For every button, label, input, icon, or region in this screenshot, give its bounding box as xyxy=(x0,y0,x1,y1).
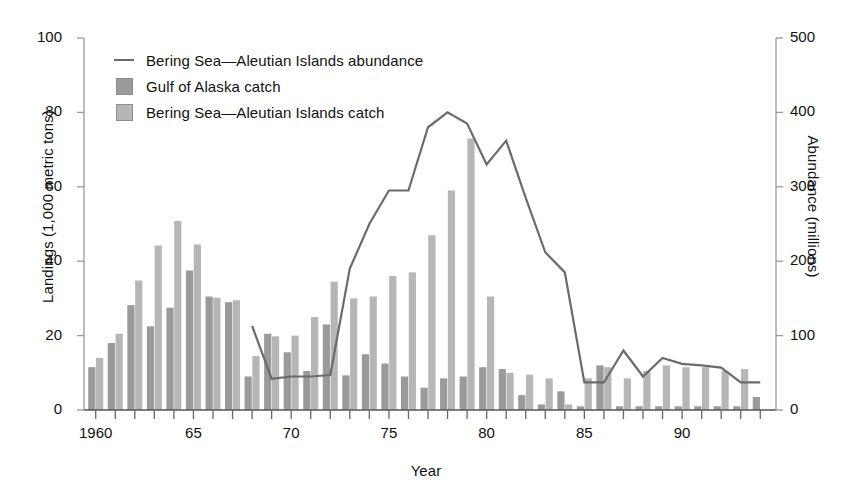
legend-color-swatch-icon xyxy=(116,104,133,121)
chart-figure: 020406080100 0100200300400500 1960657075… xyxy=(0,0,852,499)
chart-legend: Bering Sea—Aleutian Islands abundanceGul… xyxy=(113,47,423,125)
x-tick-label-80: 80 xyxy=(457,424,517,441)
x-tick-label-75: 75 xyxy=(359,424,419,441)
legend-item-2: Bering Sea—Aleutian Islands catch xyxy=(113,99,423,125)
legend-marker-line xyxy=(113,59,135,61)
y-axis-right-title: Abundance (millions) xyxy=(805,42,822,372)
legend-item-label: Gulf of Alaska catch xyxy=(146,78,281,95)
legend-marker-swatch xyxy=(113,104,135,121)
legend-item-1: Gulf of Alaska catch xyxy=(113,73,423,99)
y-axis-left-title: Landings (1,000 metric tons) xyxy=(39,42,56,372)
legend-line-swatch-icon xyxy=(114,59,134,61)
legend-color-swatch-icon xyxy=(116,78,133,95)
legend-item-0: Bering Sea—Aleutian Islands abundance xyxy=(113,47,423,73)
legend-marker-swatch xyxy=(113,78,135,95)
x-tick-label-1960: 1960 xyxy=(66,424,126,441)
x-tick-label-85: 85 xyxy=(554,424,614,441)
legend-item-label: Bering Sea—Aleutian Islands abundance xyxy=(146,52,423,69)
x-axis-title: Year xyxy=(0,462,852,479)
x-tick-label-70: 70 xyxy=(261,424,321,441)
x-tick-label-65: 65 xyxy=(163,424,223,441)
x-tick-label-90: 90 xyxy=(652,424,712,441)
legend-item-label: Bering Sea—Aleutian Islands catch xyxy=(146,104,384,121)
